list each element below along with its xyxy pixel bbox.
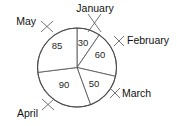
slice-value-january: 30 xyxy=(78,37,89,48)
slice-label-march: March xyxy=(122,87,151,99)
slice-label-april: April xyxy=(17,107,38,119)
pie-chart-canvas: 3060509085 JanuaryFebruaryMarchAprilMay xyxy=(0,0,177,126)
slice-label-february: February xyxy=(127,34,170,46)
slice-label-may: May xyxy=(16,15,37,27)
slice-value-march: 50 xyxy=(89,78,100,89)
slice-value-february: 60 xyxy=(95,49,106,60)
slice-value-april: 90 xyxy=(59,79,70,90)
slice-label-january: January xyxy=(76,2,114,14)
pie-chart-figure: 3060509085 JanuaryFebruaryMarchAprilMay xyxy=(0,0,177,126)
slice-value-may: 85 xyxy=(52,40,63,51)
